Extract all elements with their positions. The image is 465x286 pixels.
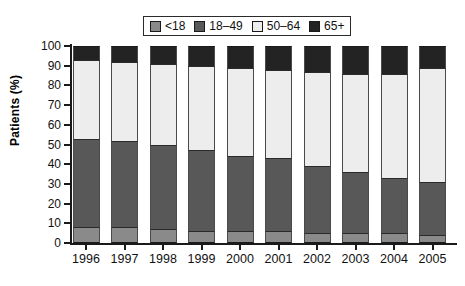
y-tick-mark <box>64 124 70 126</box>
bar-segment[interactable] <box>73 227 100 243</box>
legend-swatch-icon <box>150 21 161 32</box>
bar-stack[interactable] <box>111 46 138 243</box>
y-tick-label: 0 <box>54 237 61 249</box>
legend-entry[interactable]: 50–64 <box>252 20 300 32</box>
legend-label: 65+ <box>324 20 344 32</box>
legend-swatch-icon <box>252 21 263 32</box>
y-tick-label: 100 <box>41 40 61 52</box>
x-tick-label: 1998 <box>149 253 177 266</box>
legend-swatch-icon <box>309 21 320 32</box>
x-tick-label: 2003 <box>342 253 370 266</box>
x-tick-label: 1997 <box>111 253 139 266</box>
y-tick-label: 20 <box>48 198 61 210</box>
bar-segment[interactable] <box>188 46 215 66</box>
bar-segment[interactable] <box>342 46 369 74</box>
bar-stack[interactable] <box>150 46 177 243</box>
y-tick-label: 10 <box>48 217 61 229</box>
x-tick-mark <box>85 243 87 250</box>
bar-segment[interactable] <box>419 68 446 182</box>
bar-segment[interactable] <box>304 166 331 233</box>
legend-label: 18–49 <box>209 20 242 32</box>
bar-segment[interactable] <box>227 156 254 231</box>
x-tick-mark <box>239 243 241 250</box>
bar-segment[interactable] <box>188 231 215 243</box>
bar-segment[interactable] <box>227 231 254 243</box>
bar-segment[interactable] <box>265 231 292 243</box>
y-tick-label: 40 <box>48 158 61 170</box>
x-tick-label: 2002 <box>303 253 331 266</box>
bar-segment[interactable] <box>342 233 369 243</box>
y-tick-mark <box>64 84 70 86</box>
y-tick-label: 60 <box>48 119 61 131</box>
x-tick-label: 2004 <box>380 253 408 266</box>
x-tick-mark <box>355 243 357 250</box>
y-tick-mark <box>64 163 70 165</box>
bar-segment[interactable] <box>381 233 408 243</box>
bar-segment[interactable] <box>73 46 100 60</box>
y-axis-title: Patients (%) <box>8 75 22 146</box>
x-tick-mark <box>432 243 434 250</box>
bar-segment[interactable] <box>227 68 254 157</box>
y-tick-label: 90 <box>48 60 61 72</box>
legend-entry[interactable]: <18 <box>150 20 185 32</box>
bar-segment[interactable] <box>381 178 408 233</box>
bar-segment[interactable] <box>419 182 446 235</box>
bar-segment[interactable] <box>381 46 408 74</box>
chart-figure: <1818–4950–6465+ Patients (%) 0102030405… <box>0 0 465 286</box>
y-tick-label: 30 <box>48 178 61 190</box>
bar-segment[interactable] <box>265 46 292 70</box>
x-tick-mark <box>393 243 395 250</box>
x-tick-label: 2000 <box>226 253 254 266</box>
bar-segment[interactable] <box>188 150 215 231</box>
legend-label: 50–64 <box>267 20 300 32</box>
y-tick-mark <box>64 203 70 205</box>
y-tick-mark <box>64 104 70 106</box>
x-tick-mark <box>201 243 203 250</box>
bar-segment[interactable] <box>227 46 254 68</box>
bar-segment[interactable] <box>419 235 446 243</box>
bar-segment[interactable] <box>304 233 331 243</box>
bar-segment[interactable] <box>111 46 138 62</box>
bar-segment[interactable] <box>111 62 138 141</box>
bar-stack[interactable] <box>419 46 446 243</box>
bar-stack[interactable] <box>227 46 254 243</box>
bar-segment[interactable] <box>111 227 138 243</box>
bar-segment[interactable] <box>73 139 100 228</box>
y-tick-mark <box>64 144 70 146</box>
bar-segment[interactable] <box>265 158 292 231</box>
x-tick-label: 1999 <box>188 253 216 266</box>
bar-segment[interactable] <box>381 74 408 178</box>
bar-stack[interactable] <box>73 46 100 243</box>
x-tick-mark <box>316 243 318 250</box>
x-tick-mark <box>162 243 164 250</box>
legend-entry[interactable]: 65+ <box>309 20 344 32</box>
bar-segment[interactable] <box>111 141 138 228</box>
y-tick-label: 70 <box>48 99 61 111</box>
bar-segment[interactable] <box>419 46 446 68</box>
legend-swatch-icon <box>194 21 205 32</box>
bar-segment[interactable] <box>304 46 331 72</box>
bar-segment[interactable] <box>342 74 369 173</box>
legend-entry[interactable]: 18–49 <box>194 20 242 32</box>
bar-segment[interactable] <box>73 60 100 139</box>
bar-stack[interactable] <box>304 46 331 243</box>
bar-stack[interactable] <box>265 46 292 243</box>
bar-segment[interactable] <box>265 70 292 159</box>
bar-segment[interactable] <box>150 229 177 243</box>
bar-segment[interactable] <box>304 72 331 167</box>
plot-area: 0102030405060708090100 <box>72 46 457 243</box>
y-tick-mark <box>64 183 70 185</box>
bar-stack[interactable] <box>188 46 215 243</box>
x-tick-label: 2005 <box>419 253 447 266</box>
x-tick-label: 2001 <box>265 253 293 266</box>
bar-segment[interactable] <box>150 46 177 64</box>
x-tick-label: 1996 <box>72 253 100 266</box>
bar-segment[interactable] <box>188 66 215 151</box>
y-tick-mark <box>64 222 70 224</box>
bar-stack[interactable] <box>342 46 369 243</box>
x-axis-line <box>70 243 457 245</box>
bar-segment[interactable] <box>150 64 177 145</box>
bar-segment[interactable] <box>150 145 177 230</box>
bar-segment[interactable] <box>342 172 369 233</box>
bar-stack[interactable] <box>381 46 408 243</box>
